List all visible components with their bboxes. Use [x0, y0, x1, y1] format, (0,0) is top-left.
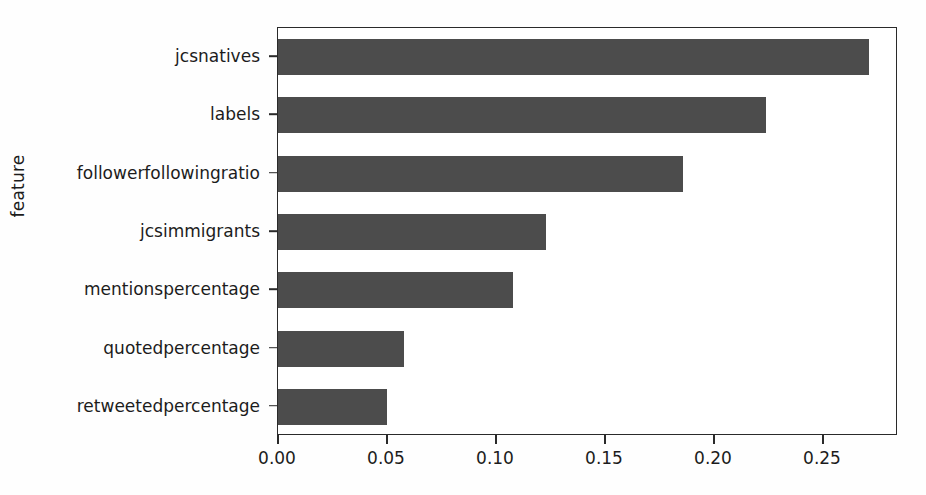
- bar: [278, 39, 869, 75]
- bars-container: [278, 28, 896, 434]
- y-tick-label: mentionspercentage: [84, 279, 260, 299]
- bar-row: [278, 272, 896, 308]
- bar: [278, 214, 546, 250]
- bar: [278, 97, 766, 133]
- y-tick-label: labels: [210, 104, 260, 124]
- bar: [278, 272, 513, 308]
- x-tick-mark: [822, 435, 824, 444]
- x-tick-mark: [604, 435, 606, 444]
- y-tick-label: retweetedpercentage: [77, 396, 260, 416]
- plot-area: [277, 27, 897, 435]
- bar-row: [278, 389, 896, 425]
- x-tick-label: 0.10: [476, 448, 514, 468]
- y-tick-label: jcsnatives: [175, 46, 260, 66]
- x-tick-label: 0.15: [585, 448, 623, 468]
- x-tick-mark: [495, 435, 497, 444]
- y-axis-title: feature: [8, 126, 28, 246]
- x-tick-label: 0.20: [694, 448, 732, 468]
- x-tick-mark: [386, 435, 388, 444]
- x-tick-label: 0.05: [367, 448, 405, 468]
- bar: [278, 156, 683, 192]
- bar-row: [278, 39, 896, 75]
- bar-row: [278, 331, 896, 367]
- bar-row: [278, 97, 896, 133]
- x-tick-mark: [277, 435, 279, 444]
- y-tick-label: followerfollowingratio: [77, 163, 260, 183]
- bar-chart-figure: feature jcsnativeslabelsfollowerfollowin…: [0, 0, 926, 495]
- bar: [278, 389, 387, 425]
- y-tick-label: jcsimmigrants: [140, 221, 260, 241]
- bar-row: [278, 156, 896, 192]
- x-tick-label: 0.00: [258, 448, 296, 468]
- x-tick-mark: [713, 435, 715, 444]
- bar-row: [278, 214, 896, 250]
- bar: [278, 331, 404, 367]
- y-tick-label: quotedpercentage: [103, 338, 260, 358]
- x-tick-label: 0.25: [803, 448, 841, 468]
